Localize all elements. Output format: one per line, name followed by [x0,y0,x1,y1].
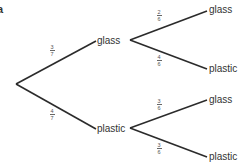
prob-plastic-plastic: 3 6 [155,142,163,155]
prob-root-plastic: 4 7 [48,108,56,121]
node-glass-plastic: plastic [209,63,237,74]
branch-glass-to-glass [130,11,207,40]
node-stage1-plastic: plastic [97,123,125,134]
node-stage1-glass: glass [97,35,120,46]
branch-glass-to-plastic [130,40,207,69]
prob-plastic-glass: 3 6 [155,98,163,111]
node-glass-glass: glass [209,4,232,15]
denominator: 6 [157,61,160,67]
denominator: 7 [50,51,53,57]
prob-glass-plastic: 4 6 [155,54,163,67]
prob-root-glass: 3 7 [48,44,56,57]
denominator: 6 [157,105,160,111]
branch-root-to-plastic [16,84,96,129]
branch-plastic-to-glass [130,100,207,128]
node-plastic-glass: glass [209,94,232,105]
node-plastic-plastic: plastic [209,151,237,162]
branch-root-to-glass [16,41,96,84]
prob-glass-glass: 2 6 [155,9,163,22]
branch-plastic-to-plastic [130,128,207,157]
denominator: 7 [50,115,53,121]
denominator: 6 [157,16,160,22]
tree-branches [0,0,241,166]
denominator: 6 [157,149,160,155]
